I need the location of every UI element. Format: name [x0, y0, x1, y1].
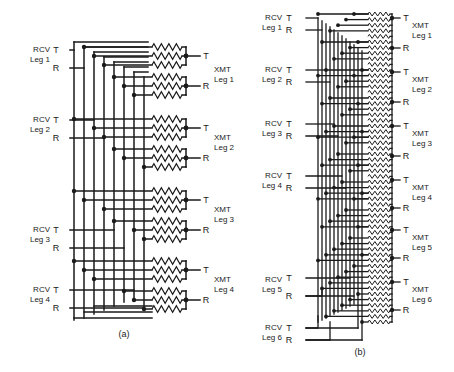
resistor-a-8-3 — [152, 306, 182, 312]
tap-a-8-1 — [122, 289, 126, 293]
tap-b-5-2 — [332, 186, 336, 190]
xmt-r-b-4: R — [403, 203, 410, 213]
resistor-b-23 — [368, 135, 390, 139]
tap-a-8-2 — [132, 298, 136, 302]
tap-b-7-2 — [340, 242, 344, 246]
resistor-b-56 — [368, 320, 390, 324]
resistor-a-4-2 — [152, 155, 182, 161]
resistor-b-54 — [368, 309, 390, 313]
rcv-t-b-2: T — [286, 65, 292, 75]
xmt-t-b-3: T — [403, 121, 409, 131]
rcv-leg-a-4: Leg 4 — [30, 295, 51, 304]
rcv-leg-b-2: Leg 2 — [262, 75, 283, 84]
tap-b-10-4 — [352, 135, 356, 139]
tap-b-6-3 — [336, 275, 340, 279]
rcv-r-a-4: R — [53, 303, 60, 313]
resistor-b-4 — [368, 29, 390, 33]
resistor-a-6-2 — [152, 227, 182, 233]
rcv-t-a-1: T — [53, 45, 59, 55]
resistor-b-37 — [368, 214, 390, 218]
output-node-b-5 — [390, 124, 394, 128]
xmt-leg-a-3: Leg 3 — [214, 215, 235, 224]
resistor-b-41 — [368, 236, 390, 240]
resistor-b-16 — [368, 96, 390, 100]
output-node-b-6 — [390, 154, 394, 158]
rcv-leg-a-2: Leg 2 — [30, 125, 51, 134]
rcv-r-b-5: R — [286, 291, 293, 301]
rcv-leg-b-4: Leg 4 — [262, 181, 283, 190]
output-node-b-9 — [390, 228, 394, 232]
tap-b-8-1 — [344, 208, 348, 212]
resistor-a-2-1 — [152, 74, 182, 80]
tap-b-8-2 — [344, 270, 348, 274]
tap-b-9-4 — [348, 107, 352, 111]
xmt-name-b-1: XMT — [412, 21, 429, 30]
tap-b-11-3 — [356, 102, 360, 106]
resistor-b-31 — [368, 180, 390, 184]
resistor-b-51 — [368, 292, 390, 296]
resistor-a-1-3 — [152, 62, 182, 68]
xmt-leg-a-2: Leg 2 — [214, 143, 235, 152]
panel-b-labels: RCVLeg 1TRRCVLeg 2TRRCVLeg 3TRRCVLeg 4TR… — [262, 13, 433, 345]
tap-b-4-3 — [328, 219, 332, 223]
xmt-t-b-6: T — [403, 277, 409, 287]
resistor-a-1-1 — [152, 44, 182, 50]
tap-b-4-2 — [328, 158, 332, 162]
output-node-b-11 — [390, 280, 394, 284]
rcv-t-a-4: T — [53, 285, 59, 295]
resistor-b-9 — [368, 57, 390, 61]
output-node-b-1 — [390, 16, 394, 20]
tap-b-1-5 — [316, 259, 320, 263]
resistor-a-5-1 — [152, 188, 182, 194]
rcv-r-b-4: R — [286, 183, 293, 193]
output-node-a-3 — [184, 126, 189, 131]
tap-b-2-5 — [320, 287, 324, 291]
tap-b-7-5 — [340, 113, 344, 117]
tap-b-6-4 — [336, 23, 340, 27]
resistor-b-30 — [368, 174, 390, 178]
rcv-leg-b-3: Leg 3 — [262, 129, 283, 138]
tap-b-7-4 — [340, 51, 344, 55]
tap-b-9-2 — [348, 298, 352, 302]
xmt-name-b-4: XMT — [412, 183, 429, 192]
tap-b-1-1 — [316, 12, 320, 16]
tap-b-11-5 — [356, 225, 360, 229]
tap-a-5-2 — [82, 198, 86, 202]
tap-b-2-3 — [320, 163, 324, 167]
panel-a-resistors — [152, 44, 182, 312]
output-node-a-4 — [184, 156, 189, 161]
tap-b-9-1 — [348, 236, 352, 240]
output-node-b-3 — [390, 70, 394, 74]
figure-canvas: RCVLeg 1TRRCVLeg 2TRRCVLeg 3TRRCVLeg 4TR… — [0, 0, 454, 372]
xmt-t-b-4: T — [403, 175, 409, 185]
resistor-a-8-2 — [152, 297, 182, 303]
xmt-leg-b-5: Leg 5 — [412, 243, 433, 252]
resistor-b-43 — [368, 247, 390, 251]
tap-b-11-4 — [356, 163, 360, 167]
resistor-a-5-3 — [152, 206, 182, 212]
tap-b-10-1 — [352, 264, 356, 268]
resistor-b-1 — [368, 12, 390, 16]
resistor-a-1-2 — [152, 53, 182, 59]
resistor-a-3-3 — [152, 134, 182, 140]
xmt-r-a-2: R — [203, 153, 210, 163]
tap-b-3-1 — [324, 68, 328, 72]
rcv-leg-b-6: Leg 6 — [262, 333, 283, 342]
output-node-b-2 — [390, 46, 394, 50]
tap-a-2-3 — [132, 93, 136, 97]
tap-a-3-3 — [102, 135, 106, 139]
xmt-leg-b-6: Leg 6 — [412, 295, 433, 304]
resistor-b-22 — [368, 130, 390, 134]
resistor-b-53 — [368, 303, 390, 307]
tap-b-12-2 — [360, 68, 364, 72]
xmt-t-a-4: T — [203, 265, 209, 275]
resistor-a-7-2 — [152, 267, 182, 273]
resistor-b-18 — [368, 107, 390, 111]
tap-a-1-2 — [92, 54, 96, 58]
rcv-leg-a-1: Leg 1 — [30, 55, 51, 64]
tap-b-1-2 — [316, 74, 320, 78]
rcv-t-a-3: T — [53, 225, 59, 235]
xmt-name-a-2: XMT — [214, 133, 231, 142]
tap-a-4-1 — [112, 147, 116, 151]
tap-b-8-5 — [344, 141, 348, 145]
